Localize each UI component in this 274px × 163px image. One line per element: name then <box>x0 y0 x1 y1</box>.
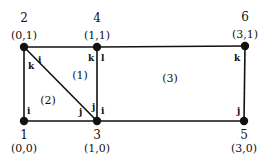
local-node-label: k <box>88 53 95 63</box>
local-node-label: l <box>101 53 105 63</box>
node-coordinate: (1,1) <box>84 29 110 42</box>
local-node-label: j <box>78 107 82 117</box>
node-2: 2(0,1) <box>11 11 37 51</box>
fe-mesh-diagram: 1(0,0)2(0,1)3(1,0)4(1,1)5(3,0)6(3,1) (1)… <box>0 0 274 163</box>
node-coordinate: (0,1) <box>11 29 37 42</box>
node-coordinate: (3,1) <box>232 28 258 41</box>
node-number: 4 <box>93 11 101 25</box>
local-node-label: i <box>27 106 31 116</box>
node-coordinate: (0,0) <box>11 142 37 155</box>
node-dot <box>241 42 249 50</box>
local-node-label: j <box>91 102 95 112</box>
edge-2-3 <box>24 47 97 121</box>
element-label: (3) <box>162 72 178 85</box>
node-dot <box>93 43 101 51</box>
node-number: 5 <box>240 128 248 142</box>
edge-4-6 <box>97 46 245 47</box>
node-dot <box>20 43 28 51</box>
mesh-edges <box>24 46 245 121</box>
element-labels: (1)(2)(3) <box>40 69 178 107</box>
local-node-label: k <box>28 61 35 71</box>
node-number: 6 <box>241 10 249 24</box>
local-node-labels: ikklkijjij <box>27 53 241 117</box>
node-dot <box>93 117 101 125</box>
node-number: 1 <box>20 128 28 142</box>
node-4: 4(1,1) <box>84 11 110 51</box>
node-coordinate: (3,0) <box>231 142 257 155</box>
local-node-label: k <box>234 53 241 63</box>
mesh-nodes: 1(0,0)2(0,1)3(1,0)4(1,1)5(3,0)6(3,1) <box>11 10 258 155</box>
local-node-label: j <box>236 106 240 116</box>
node-3: 3(1,0) <box>84 117 110 155</box>
node-number: 2 <box>20 11 28 25</box>
element-label: (2) <box>40 94 56 107</box>
local-node-label: i <box>38 55 42 65</box>
node-6: 6(3,1) <box>232 10 258 50</box>
node-1: 1(0,0) <box>11 117 37 155</box>
local-node-label: i <box>101 106 105 116</box>
node-5: 5(3,0) <box>231 117 257 155</box>
node-number: 3 <box>93 128 101 142</box>
element-label: (1) <box>72 69 88 82</box>
edge-5-6 <box>244 46 245 121</box>
node-coordinate: (1,0) <box>84 142 110 155</box>
node-dot <box>240 117 248 125</box>
node-dot <box>20 117 28 125</box>
